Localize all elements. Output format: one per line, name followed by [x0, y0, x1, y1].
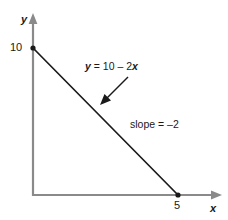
equation-pointer-arrow	[100, 77, 128, 105]
equation-arrow-shaft	[105, 77, 128, 100]
x-intercept-point	[175, 192, 180, 197]
y-axis-arrowhead	[29, 13, 38, 24]
equation-body: = 10 – 2	[91, 60, 132, 72]
y-intercept-tick-label: 10	[10, 42, 22, 53]
x-axis	[32, 191, 222, 200]
slope-annotation: slope = –2	[130, 119, 179, 130]
y-intercept-point	[30, 45, 35, 50]
graph-canvas	[0, 0, 228, 220]
y-axis-label: y	[21, 14, 27, 25]
x-intercept-tick-label: 5	[174, 200, 180, 211]
x-axis-label: x	[210, 203, 216, 214]
linear-function-diagram: y x 10 5 y = 10 – 2x slope = –2	[0, 0, 228, 220]
x-axis-arrowhead	[211, 191, 222, 200]
y-axis	[29, 13, 38, 196]
equation-annotation: y = 10 – 2x	[85, 61, 138, 72]
equation-variable-x: x	[132, 60, 138, 72]
